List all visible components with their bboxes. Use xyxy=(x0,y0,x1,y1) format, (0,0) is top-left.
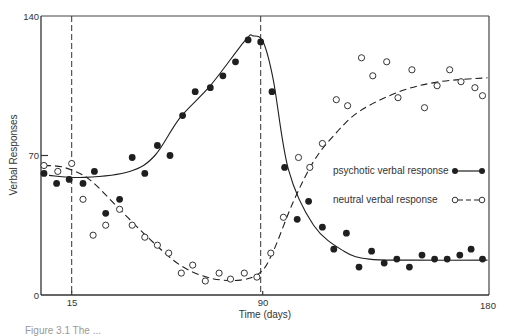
data-point-psychotic xyxy=(192,88,199,95)
data-point-psychotic xyxy=(319,224,326,231)
data-point-psychotic xyxy=(116,196,123,203)
data-point-neutral xyxy=(479,93,485,99)
data-point-neutral xyxy=(154,242,160,248)
legend: psychotic verbal response neutral verbal… xyxy=(333,165,485,205)
data-point-neutral xyxy=(409,67,415,73)
data-point-neutral xyxy=(458,79,464,85)
data-point-psychotic xyxy=(393,256,400,263)
data-point-psychotic xyxy=(91,168,98,175)
data-point-psychotic xyxy=(431,256,438,263)
data-point-neutral xyxy=(447,67,453,73)
data-point-neutral xyxy=(80,196,86,202)
data-point-neutral xyxy=(333,97,339,103)
data-point-neutral xyxy=(395,95,401,101)
data-point-psychotic xyxy=(444,256,451,263)
x-axis-title: Time (days) xyxy=(239,309,291,320)
data-point-neutral xyxy=(421,105,427,111)
data-point-neutral xyxy=(307,164,313,170)
data-point-psychotic xyxy=(102,210,109,217)
legend-symbol-psychotic xyxy=(452,168,485,174)
legend-symbol-neutral xyxy=(452,197,485,203)
data-point-psychotic xyxy=(41,170,48,177)
data-point-psychotic xyxy=(141,170,148,177)
y-tick-140: 140 xyxy=(23,11,39,22)
data-point-neutral xyxy=(254,274,260,280)
data-point-psychotic xyxy=(179,112,186,119)
data-point-psychotic xyxy=(66,176,73,183)
data-point-neutral xyxy=(190,262,196,268)
data-point-psychotic xyxy=(269,88,276,95)
data-point-neutral xyxy=(129,222,135,228)
data-point-psychotic xyxy=(80,180,87,187)
data-point-psychotic xyxy=(281,164,288,171)
data-point-psychotic xyxy=(479,256,486,263)
data-point-neutral xyxy=(358,55,364,61)
data-point-psychotic xyxy=(343,230,350,237)
data-point-neutral xyxy=(384,59,390,65)
data-point-psychotic xyxy=(167,152,174,159)
x-tick-180: 180 xyxy=(480,300,496,311)
fit-curves xyxy=(44,35,488,281)
figure-caption: Figure 3.1 The ... xyxy=(25,325,101,336)
data-point-neutral xyxy=(178,270,184,276)
data-point-neutral xyxy=(472,85,478,91)
data-point-neutral xyxy=(241,270,247,276)
data-point-neutral xyxy=(202,278,208,284)
data-point-neutral xyxy=(69,160,75,166)
data-point-psychotic xyxy=(220,72,227,79)
data-point-neutral xyxy=(268,250,274,256)
data-point-psychotic xyxy=(330,246,337,253)
data-point-psychotic xyxy=(245,37,252,44)
data-point-neutral xyxy=(345,103,351,109)
data-point-psychotic xyxy=(419,252,426,259)
data-point-psychotic xyxy=(456,252,463,259)
data-point-neutral xyxy=(90,232,96,238)
data-point-psychotic xyxy=(356,264,363,271)
data-point-neutral xyxy=(103,222,109,228)
data-point-neutral xyxy=(166,250,172,256)
data-point-neutral xyxy=(295,154,301,160)
data-point-psychotic xyxy=(207,84,214,91)
data-point-psychotic xyxy=(294,216,301,223)
fit-curve-neutral xyxy=(44,78,488,281)
data-point-psychotic xyxy=(468,246,475,253)
data-point-neutral xyxy=(55,168,61,174)
data-point-neutral xyxy=(319,140,325,146)
data-point-neutral xyxy=(216,270,222,276)
data-point-psychotic xyxy=(406,264,413,271)
data-point-psychotic xyxy=(53,180,60,187)
data-point-neutral xyxy=(434,83,440,89)
data-points xyxy=(41,37,486,285)
legend-label-neutral: neutral verbal response xyxy=(333,194,438,205)
y-tick-70: 70 xyxy=(28,150,39,161)
legend-label-psychotic: psychotic verbal response xyxy=(333,165,449,176)
data-point-psychotic xyxy=(257,39,264,46)
y-tick-0: 0 xyxy=(34,290,39,301)
data-point-psychotic xyxy=(154,142,161,149)
data-point-psychotic xyxy=(129,154,136,161)
data-point-neutral xyxy=(370,73,376,79)
data-point-neutral xyxy=(117,206,123,212)
data-point-psychotic xyxy=(381,260,388,267)
data-point-psychotic xyxy=(368,248,375,255)
data-point-neutral xyxy=(41,162,47,168)
data-point-neutral xyxy=(142,234,148,240)
data-point-psychotic xyxy=(232,58,239,65)
data-point-neutral xyxy=(280,214,286,220)
data-point-psychotic xyxy=(305,198,312,205)
x-tick-15: 15 xyxy=(67,297,78,308)
x-tick-90: 90 xyxy=(258,297,269,308)
fit-curve-psychotic xyxy=(49,35,488,261)
ticks xyxy=(41,156,263,296)
y-axis-title: Verbal Responses xyxy=(8,114,19,195)
data-point-neutral xyxy=(227,276,233,282)
